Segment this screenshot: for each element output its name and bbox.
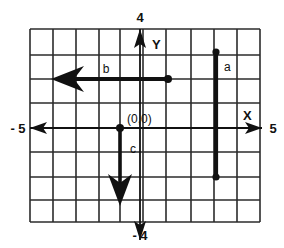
y-axis-max-tick-label: 4 [136,10,144,25]
x-axis-max-tick-label: 5 [269,121,276,136]
vector-a-label: a [224,60,231,74]
vector-c-label: c [130,142,136,156]
x-axis-min-tick-label: - 5 [10,121,25,136]
y-axis-name-label: Y [152,37,161,52]
coordinate-grid-figure: 4 - 4 - 5 5 Y X (0,0) a b c [0,0,284,248]
vector-c-start-dot [116,124,124,132]
vector-b-start-dot [164,75,172,83]
origin-label: (0,0) [127,112,152,126]
y-axis-min-tick-label: - 4 [132,228,148,243]
graph-canvas: 4 - 4 - 5 5 Y X (0,0) a b c [0,0,284,248]
x-axis-name-label: X [243,108,252,123]
vector-b-label: b [103,62,110,76]
vector-a-start-dot [212,48,219,55]
vector-a-end-dot [212,173,219,180]
